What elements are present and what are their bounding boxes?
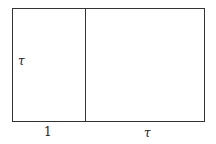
left-height-label: τ: [18, 55, 25, 67]
outer-rectangle: [12, 8, 205, 122]
right-width-label: τ: [144, 127, 151, 139]
divider-line: [85, 8, 86, 122]
left-width-label: 1: [44, 126, 52, 138]
